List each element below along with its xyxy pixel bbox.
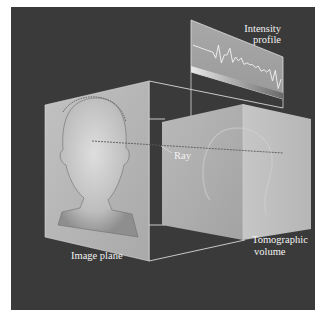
image-plane: Image plane [45,81,149,261]
intensity-label-line1: Intensity [244,23,281,34]
tomographic-label-line1: Tomographic [252,234,308,245]
tomographic-label-line2: volume [254,246,286,257]
ray-casting-diagram: Intensity profile Tomographic volume Ima… [0,0,323,324]
volume-side-face [243,104,311,240]
ray-label: Ray [174,150,192,161]
intensity-label-line2: profile [253,34,281,45]
image-plane-label: Image plane [71,250,123,261]
